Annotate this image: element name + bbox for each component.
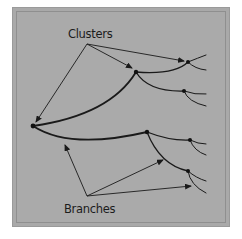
node-root bbox=[31, 124, 36, 129]
branch-upper-a bbox=[136, 62, 188, 73]
node-upper-cluster-a bbox=[186, 60, 190, 64]
leaf bbox=[188, 55, 206, 62]
branches-arrows bbox=[65, 145, 191, 196]
clusters-arrows bbox=[36, 44, 184, 122]
arrow-to-root-lower-branch bbox=[65, 145, 87, 196]
leaf bbox=[184, 91, 206, 94]
node-upper-cluster-b bbox=[182, 89, 186, 93]
arrow-to-lower-branch-b bbox=[87, 160, 163, 196]
tree-branches bbox=[33, 55, 206, 193]
leaf bbox=[188, 62, 206, 70]
branch-root-lower bbox=[33, 126, 147, 140]
node-upper-branch bbox=[134, 70, 138, 74]
branch-root-upper bbox=[33, 72, 136, 126]
branch-lower-a bbox=[147, 132, 190, 140]
leaf bbox=[190, 140, 206, 144]
branch-upper-b bbox=[136, 72, 184, 91]
tree-diagram bbox=[0, 0, 242, 239]
leaf bbox=[188, 171, 206, 193]
branches-label: Branches bbox=[64, 202, 115, 216]
node-lower-cluster-b bbox=[186, 169, 190, 173]
arrow-to-lower-cluster-b bbox=[87, 186, 191, 196]
clusters-label: Clusters bbox=[68, 27, 112, 41]
arrow-to-upper-cluster bbox=[87, 44, 184, 61]
arrow-to-root bbox=[36, 44, 87, 122]
tree-nodes bbox=[31, 60, 192, 173]
node-lower-cluster-a bbox=[188, 138, 192, 142]
node-lower-branch bbox=[145, 130, 149, 134]
leaf bbox=[190, 140, 206, 155]
